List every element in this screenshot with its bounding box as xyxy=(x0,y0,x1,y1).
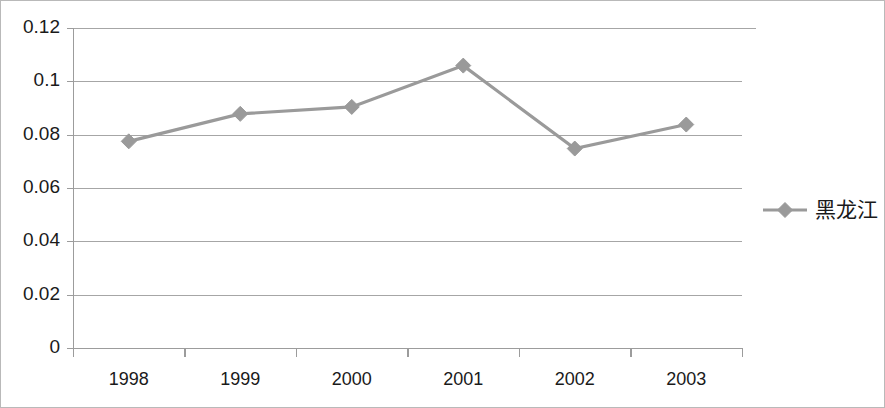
axes xyxy=(67,28,743,357)
data-point-marker xyxy=(679,117,694,132)
line-chart: 00.020.040.060.080.10.12 199819992000200… xyxy=(1,1,885,408)
legend-label: 黑龙江 xyxy=(815,198,878,221)
x-axis-tick-labels: 199819992000200120022003 xyxy=(109,369,707,389)
x-axis-tick-label: 2000 xyxy=(332,369,372,389)
x-axis-tick-label: 1999 xyxy=(220,369,260,389)
y-axis-tick-labels: 00.020.040.060.080.10.12 xyxy=(23,16,60,357)
series-line xyxy=(129,66,687,149)
gridlines xyxy=(73,29,756,296)
chart-container: 00.020.040.060.080.10.12 199819992000200… xyxy=(0,0,885,408)
y-axis-tick-label: 0.02 xyxy=(23,283,60,304)
legend-marker-icon xyxy=(778,203,793,218)
data-point-marker xyxy=(233,106,248,121)
x-axis-tick-label: 2001 xyxy=(443,369,483,389)
y-axis-tick-label: 0.06 xyxy=(23,176,60,197)
x-axis-tick-label: 2003 xyxy=(666,369,706,389)
data-series xyxy=(121,58,694,156)
data-point-marker xyxy=(121,134,136,149)
data-point-marker xyxy=(344,99,359,114)
y-axis-tick-label: 0.08 xyxy=(23,123,60,144)
y-axis-tick-label: 0 xyxy=(49,336,60,357)
y-axis-tick-label: 0.12 xyxy=(23,16,60,37)
x-axis-tick-label: 1998 xyxy=(109,369,149,389)
y-axis-tick-label: 0.1 xyxy=(34,69,60,90)
y-axis-tick-label: 0.04 xyxy=(23,229,60,250)
x-axis-tick-label: 2002 xyxy=(555,369,595,389)
chart-legend: 黑龙江 xyxy=(763,198,878,221)
